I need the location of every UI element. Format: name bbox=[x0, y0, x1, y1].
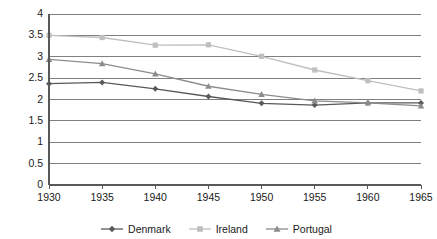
y-axis-tick-label: 0.5 bbox=[8, 158, 43, 169]
series-layer bbox=[46, 33, 425, 109]
x-axis-tick-label: 1965 bbox=[399, 192, 437, 203]
x-axis-ticks bbox=[49, 185, 421, 189]
x-axis-tick-label: 1930 bbox=[27, 192, 71, 203]
x-axis-tick-label: 1935 bbox=[80, 192, 124, 203]
legend-label: Denmark bbox=[128, 224, 171, 235]
x-axis-tick-label: 1955 bbox=[293, 192, 337, 203]
legend-label: Portugal bbox=[293, 224, 332, 235]
data-point-marker bbox=[365, 78, 370, 83]
data-point-marker bbox=[153, 43, 158, 48]
x-axis-tick-label: 1940 bbox=[133, 192, 177, 203]
x-axis-tick-label: 1960 bbox=[346, 192, 390, 203]
y-axis-tick-label: 3 bbox=[8, 51, 43, 62]
y-axis-tick-label: 0 bbox=[8, 179, 43, 190]
y-axis-tick-label: 2.5 bbox=[8, 72, 43, 83]
y-axis-tick-label: 2 bbox=[8, 94, 43, 105]
legend-marker-icon bbox=[100, 223, 124, 235]
y-axis-tick-label: 1.5 bbox=[8, 115, 43, 126]
data-point-marker bbox=[99, 79, 105, 85]
data-point-marker bbox=[100, 35, 105, 40]
y-axis-tick-label: 3.5 bbox=[8, 29, 43, 40]
legend-item-portugal[interactable]: Portugal bbox=[265, 223, 332, 235]
y-axis-tick-label: 1 bbox=[8, 136, 43, 147]
legend-marker-icon bbox=[265, 223, 289, 235]
data-point-marker bbox=[206, 42, 211, 47]
data-point-marker bbox=[418, 88, 423, 93]
data-point-marker bbox=[205, 94, 211, 100]
y-axis-tick-label: 4 bbox=[8, 8, 43, 19]
legend-marker-icon bbox=[188, 223, 212, 235]
legend-item-ireland[interactable]: Ireland bbox=[188, 223, 248, 235]
chart-legend: DenmarkIrelandPortugal bbox=[0, 223, 432, 235]
data-point-marker bbox=[152, 86, 158, 92]
legend-item-denmark[interactable]: Denmark bbox=[100, 223, 171, 235]
x-axis-tick-label: 1950 bbox=[240, 192, 284, 203]
x-axis-tick-label: 1945 bbox=[186, 192, 230, 203]
series-line bbox=[49, 82, 421, 105]
data-point-marker bbox=[259, 54, 264, 59]
data-point-marker bbox=[259, 100, 265, 106]
data-point-marker bbox=[312, 67, 317, 72]
legend-label: Ireland bbox=[216, 224, 248, 235]
